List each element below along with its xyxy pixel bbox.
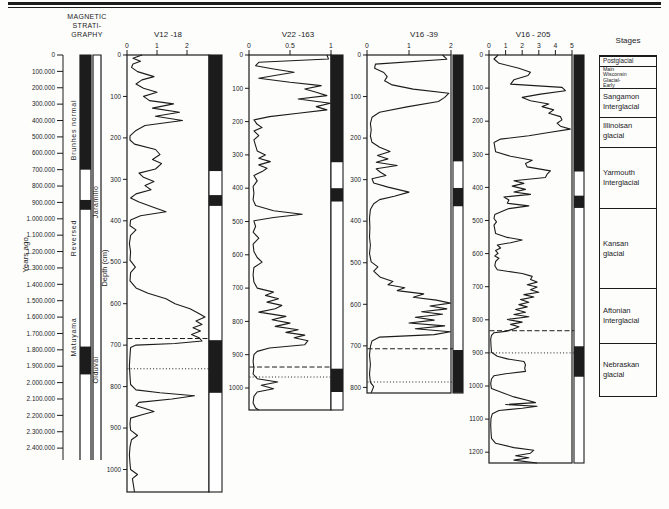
- chron-label: Matuyama: [70, 318, 78, 357]
- years-axis-tick-label: 200.000: [32, 84, 56, 91]
- stage-label: Illinoisan: [603, 121, 655, 131]
- depth-tick-label: 1000: [469, 382, 484, 389]
- years-axis-tick-label: 500.000: [32, 133, 56, 140]
- depth-tick-label: 600: [232, 251, 243, 258]
- years-axis-tick-label: 2.200.000: [27, 412, 56, 419]
- depth-tick-label: 800: [232, 318, 243, 325]
- core-title: V16 -39: [410, 30, 439, 39]
- depth-tick-label: 800: [472, 316, 483, 323]
- core-normal-polarity-interval: [453, 55, 463, 161]
- stage-label: Aftonian: [603, 306, 655, 316]
- x-axis-tick-label: 1: [407, 42, 411, 49]
- depth-tick-label: 100: [110, 93, 121, 100]
- years-axis-tick-label: 400.000: [32, 117, 56, 124]
- years-axis-tick-label: 2.300.000: [27, 428, 56, 435]
- core-plot-box: [367, 55, 451, 393]
- magnetic-stratigraphy-figure: Years ago MAGNETIC STRATI- GRAPHY Depth …: [0, 0, 669, 509]
- years-axis-tick-label: 1.100.000: [27, 231, 56, 238]
- depth-tick-label: 800: [110, 383, 121, 390]
- polarity-event-label: Olduvai: [92, 356, 99, 383]
- core-normal-polarity-interval: [453, 188, 463, 206]
- years-axis-tick-label: 1.000.000: [27, 215, 56, 222]
- depth-tick-label: 500: [110, 258, 121, 265]
- x-axis-tick-label: 5: [570, 42, 574, 49]
- years-axis-tick-label: 2.400.000: [27, 444, 56, 451]
- stage-label: Interglacial: [603, 316, 655, 326]
- depth-tick-label: 1000: [229, 384, 244, 391]
- core-normal-polarity-interval: [209, 55, 222, 171]
- x-axis-tick-label: 0: [247, 42, 251, 49]
- stage-box: Illinoisanglacial: [600, 117, 656, 147]
- core-normal-polarity-interval: [331, 55, 343, 162]
- stage-label: glacial: [603, 370, 655, 380]
- core-title: V22 -163: [282, 30, 315, 39]
- x-axis-tick-label: 4: [554, 42, 558, 49]
- depth-tick-label: 900: [472, 349, 483, 356]
- polarity-event-column: [93, 55, 101, 460]
- core-curve: [491, 55, 571, 463]
- stage-label: glacial: [603, 249, 655, 259]
- depth-tick-label: 400: [232, 184, 243, 191]
- stage-label: Postglacial: [603, 57, 655, 65]
- depth-tick-label: 900: [110, 424, 121, 431]
- stage-label: Sangamon: [603, 92, 655, 102]
- depth-tick-label: 500: [350, 259, 361, 266]
- stage-label: Interglacial: [603, 102, 655, 112]
- core-normal-polarity-interval: [331, 188, 343, 201]
- years-axis-tick-label: 1.200.000: [27, 248, 56, 255]
- years-axis-tick-label: 2.100.000: [27, 395, 56, 402]
- figure-canvas: 0100.000200.000300.000400.000500.000600.…: [0, 0, 669, 509]
- core-normal-polarity-interval: [209, 340, 222, 393]
- x-axis-tick-label: 1: [504, 42, 508, 49]
- depth-tick-label: 700: [472, 283, 483, 290]
- stage-box: MainWisconsinGlacial-Early: [600, 66, 656, 88]
- depth-tick-label: 200: [472, 117, 483, 124]
- depth-tick-label: 100: [472, 84, 483, 91]
- depth-tick-label: 0: [357, 51, 361, 58]
- stage-box: Postglacial: [600, 57, 656, 66]
- depth-tick-label: 300: [350, 176, 361, 183]
- depth-tick-label: 0: [479, 51, 483, 58]
- stage-label: Early: [603, 83, 655, 88]
- stage-label: Kansan: [603, 239, 655, 249]
- years-axis-tick-label: 800.000: [32, 182, 56, 189]
- depth-tick-label: 200: [350, 134, 361, 141]
- chron-label: Reversed: [70, 220, 77, 256]
- core-normal-polarity-interval: [574, 346, 584, 376]
- x-axis-tick-label: 2: [449, 42, 453, 49]
- stages-column: PostglacialMainWisconsinGlacial-EarlySan…: [599, 55, 657, 397]
- depth-tick-label: 600: [110, 300, 121, 307]
- depth-tick-label: 200: [110, 134, 121, 141]
- years-axis-tick-label: 2.000.000: [27, 379, 56, 386]
- depth-tick-label: 300: [472, 151, 483, 158]
- depth-tick-label: 400: [350, 217, 361, 224]
- years-axis-tick-label: 1.300.000: [27, 264, 56, 271]
- depth-tick-label: 500: [472, 217, 483, 224]
- polarity-event-label: Jaramillo: [92, 186, 99, 219]
- core-normal-polarity-interval: [453, 350, 463, 393]
- depth-tick-label: 100: [232, 85, 243, 92]
- years-axis-tick-label: 0: [51, 51, 55, 58]
- depth-tick-label: 200: [232, 118, 243, 125]
- depth-tick-label: 700: [350, 342, 361, 349]
- x-axis-tick-label: 2: [185, 42, 189, 49]
- x-axis-tick-label: 1: [155, 42, 159, 49]
- years-axis-tick-label: 1.600.000: [27, 313, 56, 320]
- x-axis-tick-label: 3: [537, 42, 541, 49]
- normal-polarity-interval: [80, 55, 91, 170]
- x-axis-tick-label: 0: [365, 42, 369, 49]
- years-axis-tick-label: 1.800.000: [27, 346, 56, 353]
- core-curve: [370, 55, 451, 393]
- stage-box: YarmouthInterglacial: [600, 147, 656, 208]
- stage-label: glacial: [603, 131, 655, 141]
- x-axis-tick-label: 2: [520, 42, 524, 49]
- core-normal-polarity-interval: [209, 195, 222, 206]
- years-axis-tick-label: 900.000: [32, 199, 56, 206]
- core-plot-box: [249, 55, 331, 410]
- core-normal-polarity-interval: [574, 55, 584, 172]
- depth-tick-label: 400: [472, 184, 483, 191]
- depth-tick-label: 1000: [107, 466, 122, 473]
- normal-polarity-interval: [80, 200, 91, 210]
- depth-tick-label: 600: [350, 301, 361, 308]
- core-curve: [129, 55, 205, 492]
